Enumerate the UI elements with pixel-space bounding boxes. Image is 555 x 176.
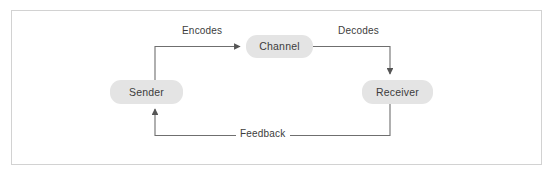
edge-label-feedback: Feedback (236, 129, 290, 139)
node-receiver-label: Receiver (376, 87, 419, 98)
diagram-connectors (0, 0, 555, 176)
edge-decodes-path (313, 47, 390, 75)
node-channel-label: Channel (259, 41, 300, 52)
edge-label-encodes: Encodes (178, 26, 226, 36)
edge-label-decodes: Decodes (334, 26, 383, 36)
node-channel[interactable]: Channel (246, 35, 313, 58)
diagram-canvas: Sender Channel Receiver Encodes Decodes … (0, 0, 555, 176)
node-receiver[interactable]: Receiver (362, 80, 433, 104)
node-sender-label: Sender (129, 87, 164, 98)
node-sender[interactable]: Sender (110, 80, 183, 104)
edge-encodes-path (155, 47, 240, 81)
